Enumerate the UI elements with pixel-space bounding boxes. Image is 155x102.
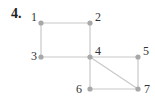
node-7 bbox=[135, 86, 140, 91]
node-2 bbox=[87, 20, 92, 25]
node-5 bbox=[135, 54, 140, 59]
node-label-7: 7 bbox=[144, 82, 150, 96]
node-label-2: 2 bbox=[95, 10, 101, 24]
graph-diagram: 1234567 bbox=[0, 0, 155, 102]
node-4 bbox=[87, 54, 92, 59]
node-label-4: 4 bbox=[95, 44, 101, 58]
node-label-6: 6 bbox=[76, 82, 82, 96]
node-1 bbox=[38, 20, 43, 25]
edge-4-7 bbox=[90, 57, 138, 89]
node-6 bbox=[87, 86, 92, 91]
node-label-3: 3 bbox=[31, 49, 37, 63]
node-3 bbox=[38, 54, 43, 59]
node-label-1: 1 bbox=[31, 10, 37, 24]
node-label-5: 5 bbox=[143, 44, 149, 58]
